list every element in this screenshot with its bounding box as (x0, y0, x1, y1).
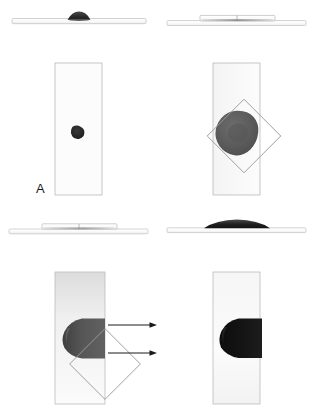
substrate-bar-side-lower (9, 229, 148, 234)
panel-a-graphic (0, 0, 158, 207)
panel-label-a: A (36, 182, 45, 195)
motion-arrow-lower (108, 350, 157, 356)
arrow-head-upper (150, 322, 158, 328)
arrow-head-lower (150, 350, 158, 356)
figure-canvas: A (0, 0, 316, 415)
droplet-bead-base (68, 18, 91, 21)
panel-c: C (0, 208, 158, 415)
panel-b-top-view (207, 63, 281, 195)
droplet-inner-texture (228, 124, 248, 143)
panel-c-side-view (9, 224, 148, 234)
panel-d-graphic (158, 208, 316, 415)
panel-b-graphic (158, 0, 316, 207)
motion-arrow-upper (108, 322, 157, 328)
panel-c-top-view (55, 272, 157, 404)
panel-b: B (158, 0, 316, 207)
panel-a: A (0, 0, 158, 207)
panel-a-top-view (55, 63, 102, 195)
droplet-film-side (202, 19, 273, 21)
panel-a-side-view (12, 12, 146, 24)
droplet-lens-side (204, 220, 270, 229)
panel-d-top-view (213, 272, 262, 404)
panel-d-side-view (167, 220, 306, 233)
panel-c-graphic (0, 208, 158, 415)
droplet-film-side (44, 227, 115, 229)
panel-d: D (158, 208, 316, 415)
panel-b-side-view (167, 15, 306, 25)
substrate-bar-side (167, 228, 306, 233)
